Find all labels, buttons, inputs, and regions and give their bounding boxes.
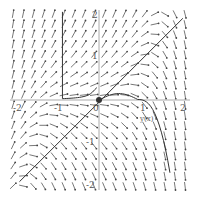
direction-field-plot: -2 -1 0 1 2 2 1 -1 -2 y(x) xyxy=(0,0,197,202)
curve-label: y(x) xyxy=(139,115,154,123)
y-tick-2: 2 xyxy=(92,10,98,20)
y-tick-1: 1 xyxy=(92,51,98,61)
x-tick-1: 1 xyxy=(140,103,146,113)
x-tick-neg2: -2 xyxy=(13,103,22,113)
x-tick-neg1: -1 xyxy=(54,103,63,113)
y-tick-neg1: -1 xyxy=(86,137,95,147)
y-tick-neg2: -2 xyxy=(86,180,95,190)
x-tick-0: 0 xyxy=(93,103,99,113)
x-tick-2: 2 xyxy=(180,103,186,113)
